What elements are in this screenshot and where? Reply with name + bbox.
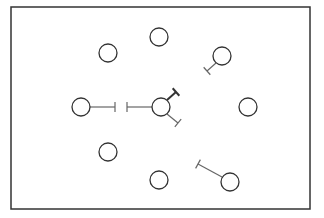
- network-diagram: [0, 0, 324, 218]
- inhibitory-edge-center: [127, 102, 152, 112]
- inhibitory-edge-center: [167, 88, 179, 100]
- node-top: [150, 28, 168, 46]
- node-upper-right: [213, 47, 231, 65]
- edge-line: [167, 92, 176, 100]
- node-lower-left: [99, 143, 117, 161]
- edge-line: [167, 114, 178, 123]
- inhibitory-edge-lower-right: [196, 160, 222, 177]
- node-center: [152, 98, 170, 116]
- node-right: [239, 98, 257, 116]
- inhibitory-edge-upper-right: [204, 63, 216, 75]
- t-bar-icon: [175, 119, 181, 127]
- node-upper-left: [99, 44, 117, 62]
- node-left: [72, 98, 90, 116]
- inhibitory-edge-center: [167, 114, 181, 127]
- edge-line: [207, 63, 216, 71]
- nodes: [72, 28, 257, 191]
- t-bar-icon: [196, 160, 201, 169]
- node-bottom: [150, 171, 168, 189]
- node-lower-right: [221, 173, 239, 191]
- edge-line: [198, 164, 222, 177]
- inhibitory-edge-left: [90, 102, 115, 112]
